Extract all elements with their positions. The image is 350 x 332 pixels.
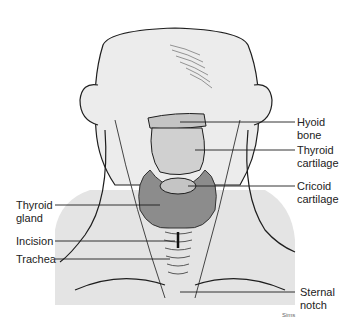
left-ear: [80, 85, 98, 125]
illustrator-credit: Sims: [282, 312, 295, 318]
label-hyoid-bone: Hyoid bone: [297, 116, 325, 142]
right-ear: [254, 85, 272, 125]
label-trachea: Trachea: [16, 253, 56, 266]
thyroid-cartilage: [151, 128, 205, 175]
label-incision: Incision: [16, 235, 53, 248]
label-thyroid-gland: Thyroid gland: [16, 199, 53, 225]
label-cricoid-cartilage: Cricoid cartilage: [297, 180, 339, 206]
label-sternal-notch: Sternal notch: [300, 286, 335, 312]
label-thyroid-cartilage: Thyroid cartilage: [297, 144, 339, 170]
